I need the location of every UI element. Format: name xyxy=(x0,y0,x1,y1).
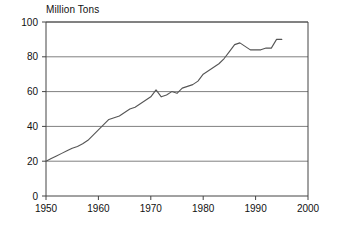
chart-container: Million Tons 020406080100 19501960197019… xyxy=(0,0,340,236)
x-axis-ticks-group: 195019601970198019902000 xyxy=(35,196,320,214)
y-axis-tick-label: 40 xyxy=(27,121,39,132)
data-series-group xyxy=(46,39,282,161)
y-axis-tick-label: 60 xyxy=(27,86,39,97)
y-axis-ticks-group: 020406080100 xyxy=(21,17,46,202)
gridlines-group xyxy=(46,22,308,161)
x-axis-tick-label: 1960 xyxy=(87,203,110,214)
data-line xyxy=(46,39,282,161)
x-axis-tick-label: 1980 xyxy=(192,203,215,214)
x-axis-tick-label: 1950 xyxy=(35,203,58,214)
line-chart-svg: 020406080100 195019601970198019902000 xyxy=(0,0,340,236)
y-axis-tick-label: 0 xyxy=(32,191,38,202)
x-axis-tick-label: 2000 xyxy=(297,203,320,214)
y-axis-tick-label: 20 xyxy=(27,156,39,167)
x-axis-tick-label: 1970 xyxy=(140,203,163,214)
y-axis-tick-label: 100 xyxy=(21,17,38,28)
x-axis-tick-label: 1990 xyxy=(244,203,267,214)
y-axis-tick-label: 80 xyxy=(27,51,39,62)
